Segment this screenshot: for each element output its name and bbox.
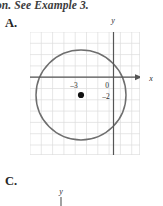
tick-label-minus2: –2 <box>101 92 110 101</box>
instruction-text: on. See Example 3. <box>0 0 126 11</box>
choice-c-letter[interactable]: C. <box>5 174 17 189</box>
graph-c-svg: y <box>50 186 110 206</box>
center-point <box>78 92 84 98</box>
choice-c-graph: y <box>50 186 110 206</box>
choice-a-graph: –3 0 –2 <box>30 32 140 155</box>
y-axis-label: y <box>110 16 115 25</box>
graph-a-x-label-group: x <box>146 70 162 86</box>
page-root: on. See Example 3. A. <box>0 0 163 206</box>
x-axis-label: x <box>148 74 153 83</box>
y-axis-label: y <box>58 187 63 196</box>
graph-a-svg: –3 0 –2 <box>30 32 140 155</box>
tick-label-origin: 0 <box>105 81 109 90</box>
choice-a-letter[interactable]: A. <box>5 16 17 31</box>
graph-a-y-label-group: y <box>105 14 127 36</box>
tick-label-minus3: –3 <box>69 81 78 90</box>
